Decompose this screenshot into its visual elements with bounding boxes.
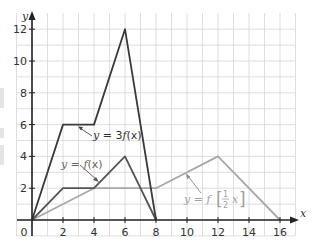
origin-label: 0 — [21, 226, 28, 239]
x-tick-label: 2 — [60, 226, 67, 239]
svg-text:y = f(x): y = f(x) — [60, 158, 103, 171]
y-axis-arrow-icon — [29, 11, 36, 20]
x-tick-label: 14 — [242, 226, 256, 239]
y-tick-label: 6 — [20, 119, 27, 132]
svg-text:]: ] — [239, 189, 246, 209]
x-tick-label: 6 — [122, 226, 129, 239]
svg-text:y = f: y = f — [183, 193, 212, 206]
x-axis-label: x — [300, 207, 307, 220]
pointer-arrow — [188, 176, 201, 193]
svg-text:x: x — [232, 193, 239, 206]
x-tick-label: 4 — [91, 226, 98, 239]
y-tick-label: 2 — [20, 182, 27, 195]
y-tick-label: 12 — [13, 23, 27, 36]
svg-text:1: 1 — [223, 190, 228, 199]
x-tick-label: 10 — [180, 226, 194, 239]
label-3fx: y = 3f(x) — [78, 127, 142, 143]
y-axis-label: y — [21, 10, 29, 23]
x-tick-label: 16 — [273, 226, 287, 239]
grid — [17, 13, 296, 236]
x-tick-label: 12 — [211, 226, 225, 239]
label-f-half-x: y = f [ 1 2 x ] — [183, 174, 246, 211]
pointer-arrow — [80, 128, 92, 136]
svg-text:[: [ — [216, 189, 223, 209]
y-tick-label: 10 — [13, 55, 27, 68]
label-fx: y = f(x) — [60, 158, 103, 182]
svg-text:2: 2 — [223, 201, 228, 210]
x-axis-arrow-icon — [290, 217, 299, 224]
x-tick-label: 8 — [153, 226, 160, 239]
svg-text:y = 3f(x): y = 3f(x) — [92, 129, 142, 142]
y-tick-label: 8 — [20, 87, 27, 100]
function-graph: x y 246810121416246810120 y = 3f(x) y = … — [0, 0, 313, 248]
y-tick-label: 4 — [20, 150, 27, 163]
